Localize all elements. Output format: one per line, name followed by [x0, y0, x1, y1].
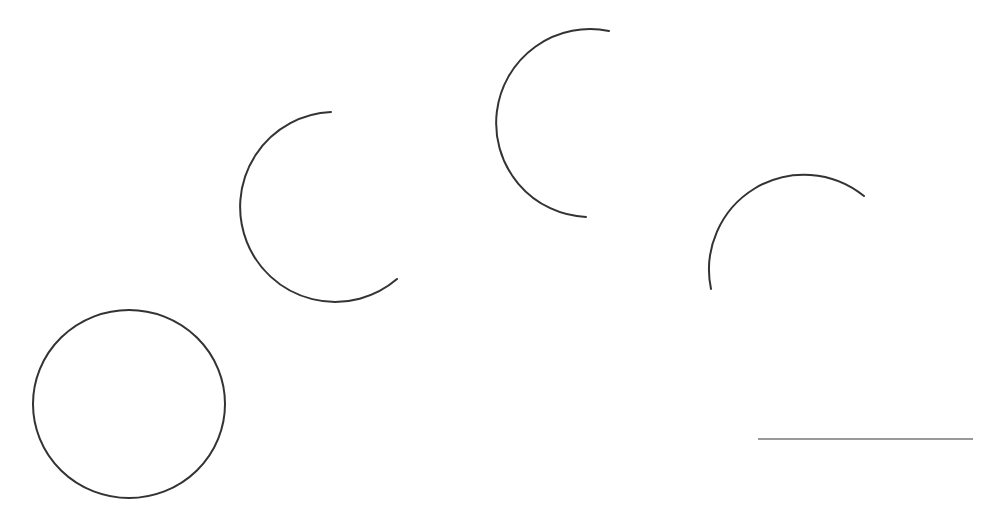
arc-shape-4	[709, 175, 864, 289]
full-circle	[33, 310, 225, 498]
arc-shape-2	[240, 112, 397, 302]
arc-shape-3	[496, 29, 609, 217]
diagram-canvas	[0, 0, 1004, 506]
